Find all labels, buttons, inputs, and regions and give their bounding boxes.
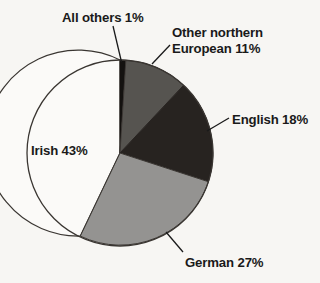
pie-label-other-northern-european-line1: Other northern xyxy=(172,25,263,40)
leader-line-german xyxy=(166,232,183,252)
pie-label-other-northern-european: Other northern European 11% xyxy=(172,25,282,56)
leader-line-other-northern-european xyxy=(152,45,170,64)
pie-label-german: German 27% xyxy=(185,255,263,271)
pie-label-irish: Irish 43% xyxy=(31,143,88,159)
pie-label-english: English 18% xyxy=(232,112,308,128)
pie-label-other-northern-european-line2: European 11% xyxy=(172,41,260,56)
pie-label-all-others: All others 1% xyxy=(62,10,144,26)
leader-line-all-others xyxy=(113,26,122,62)
leader-line-english xyxy=(207,118,229,131)
pie-chart-figure: All others 1% Other northern European 11… xyxy=(0,0,320,283)
